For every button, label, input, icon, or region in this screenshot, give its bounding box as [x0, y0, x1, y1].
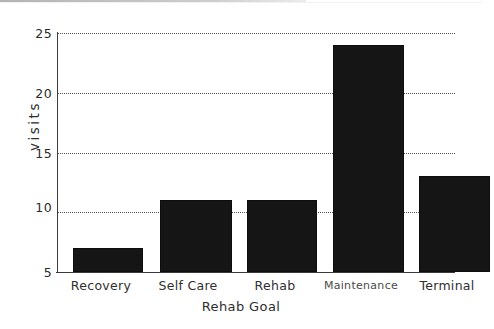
y-axis-title: visits: [26, 86, 42, 166]
bar-terminal: [419, 176, 490, 272]
plot-area: [57, 33, 455, 272]
bar-self-care: [160, 200, 232, 272]
x-axis-line: [56, 272, 455, 273]
y-tick-label-25: 25: [18, 26, 52, 41]
gridline-25: [57, 33, 455, 34]
x-axis-title: Rehab Goal: [0, 299, 482, 314]
bar-rehab: [247, 200, 317, 272]
bar-maintenance: [333, 45, 404, 272]
x-tick-label-terminal: Terminal: [394, 278, 494, 293]
y-axis-line: [57, 32, 58, 273]
y-tick-label-5: 5: [18, 265, 52, 280]
bar-recovery: [73, 248, 143, 272]
y-tick-label-10: 10: [18, 200, 52, 215]
